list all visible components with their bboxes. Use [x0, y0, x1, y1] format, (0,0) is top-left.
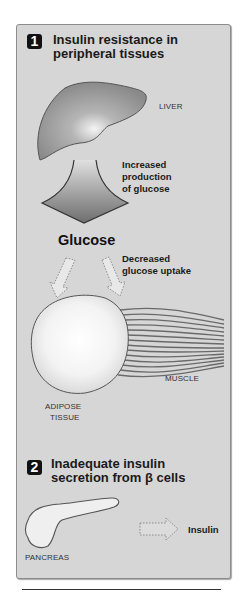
down-arrow-icon	[42, 160, 128, 223]
pancreas-label: PANCREAS	[25, 553, 69, 562]
liver-icon	[38, 82, 147, 160]
dotted-arrow-left-icon	[50, 258, 75, 298]
diagram-artwork	[0, 0, 239, 594]
decreased-label-line2: glucose uptake	[122, 265, 191, 276]
adipose-label-line1: ADIPOSE	[45, 402, 81, 411]
section-1-title-line1: Insulin resistance in	[53, 33, 178, 46]
section-1-badge: 1	[27, 34, 42, 49]
insulin-arrow-icon	[140, 518, 178, 540]
increased-label-line2: production	[122, 171, 172, 182]
adipose-label-line2: TISSUE	[50, 413, 80, 422]
insulin-label: Insulin	[188, 524, 219, 535]
muscle-label: MUSCLE	[165, 374, 199, 383]
section-2-badge: 2	[27, 460, 42, 475]
section-2-title-line2: secretion from β cells	[51, 471, 185, 484]
pancreas-icon	[25, 498, 118, 548]
section-1-title-line2: peripheral tissues	[53, 47, 164, 60]
muscle-icon	[118, 308, 224, 376]
increased-label-line3: of glucose	[122, 183, 170, 194]
section-2-title-line1: Inadequate insulin	[51, 457, 165, 470]
adipose-cell-icon	[31, 295, 128, 393]
bottom-divider	[22, 589, 221, 590]
increased-label-line1: Increased	[122, 159, 166, 170]
liver-label: LIVER	[159, 102, 183, 111]
decreased-label-line1: Decreased	[122, 253, 170, 264]
glucose-label: Glucose	[58, 232, 115, 248]
